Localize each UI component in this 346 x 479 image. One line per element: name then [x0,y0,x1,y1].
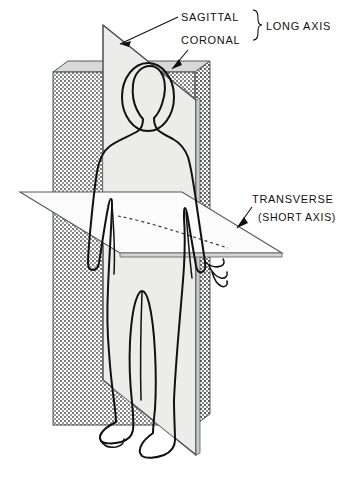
transverse-leader-arrowhead [237,217,248,228]
short-axis-label-text: (SHORT AXIS) [258,211,336,223]
sagittal-plane-thickness [196,98,200,455]
sagittal-leader-line [120,17,178,44]
label-transverse: TRANSVERSE (SHORT AXIS) [237,193,336,228]
transverse-plane-thickness [120,253,282,257]
anatomical-plane-diagram: SAGITTAL CORONAL LONG AXIS TRANSVERSE (S… [0,0,346,479]
long-axis-label-text: LONG AXIS [266,20,331,32]
label-long-axis: LONG AXIS [253,10,331,40]
sagittal-label-text: SAGITTAL [181,11,239,23]
coronal-label-text: CORONAL [181,34,240,46]
transverse-label-text: TRANSVERSE [252,193,334,205]
long-axis-brace [253,10,262,40]
diagram-canvas: SAGITTAL CORONAL LONG AXIS TRANSVERSE (S… [0,0,346,479]
